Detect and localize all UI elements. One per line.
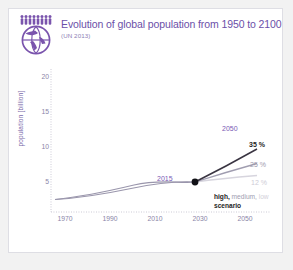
chart-card: Evolution of global population from 1950… — [8, 8, 283, 253]
page-title: Evolution of global population from 1950… — [61, 18, 276, 30]
scenario-high-label: high, — [214, 193, 230, 200]
scenario-legend: high, medium, low scenario — [214, 192, 269, 210]
chart-svg — [9, 57, 284, 253]
label-2015: 2015 — [157, 175, 173, 182]
label-2050: 2050 — [222, 125, 238, 132]
page-subtitle: (UN 2013) — [61, 32, 276, 39]
scenario-legend-suffix: scenario — [214, 201, 269, 210]
marker-2015 — [192, 179, 199, 186]
header-text-group: Evolution of global population from 1950… — [61, 18, 276, 39]
people-group-icon — [20, 15, 52, 25]
card-header: Evolution of global population from 1950… — [9, 9, 282, 57]
label-low-percent: 12 % — [251, 179, 267, 186]
label-medium-percent: 25 % — [250, 161, 266, 168]
chart-plot-area: population [billion] 20 15 10 5 1970 199… — [9, 57, 284, 253]
series-line-historical — [55, 182, 195, 200]
label-high-percent: 35 % — [249, 141, 265, 148]
globe-icon — [21, 25, 51, 55]
scenario-medium-label: medium, — [232, 193, 257, 200]
header-icon-group — [17, 15, 55, 55]
scenario-low-label: low — [259, 193, 269, 200]
scenario-legend-line1: high, medium, low — [214, 192, 269, 201]
